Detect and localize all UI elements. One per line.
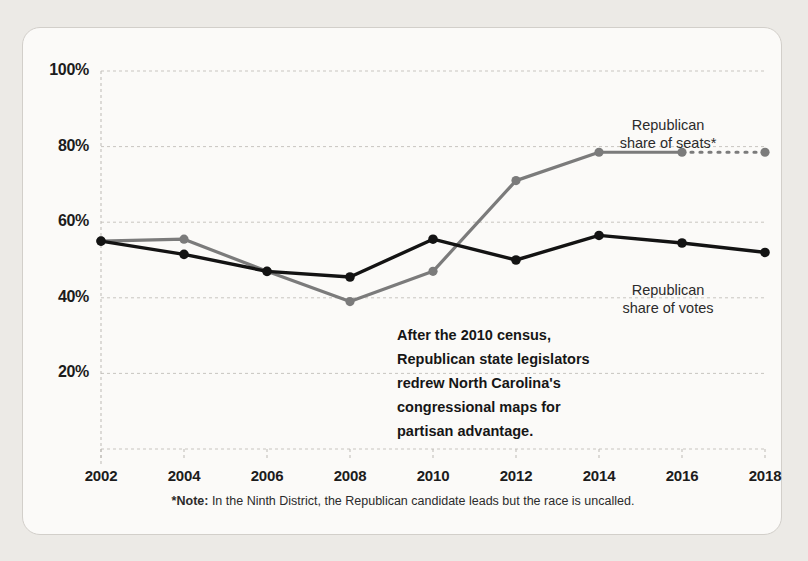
x-tick-label: 2002 bbox=[71, 467, 131, 484]
data-point-marker bbox=[96, 236, 106, 246]
data-point-marker bbox=[760, 148, 769, 157]
series-label-votes-line1: Republican bbox=[632, 282, 705, 298]
series-line-solid bbox=[101, 152, 682, 301]
data-point-marker bbox=[677, 238, 687, 248]
x-tick-label: 2014 bbox=[569, 467, 629, 484]
data-point-marker bbox=[428, 234, 438, 244]
series-label-seats-line1: Republican bbox=[632, 117, 705, 133]
data-point-marker bbox=[345, 272, 355, 282]
y-tick-label: 20% bbox=[29, 363, 89, 381]
x-tick-label: 2004 bbox=[154, 467, 214, 484]
x-tick-label: 2008 bbox=[320, 467, 380, 484]
data-point-marker bbox=[345, 297, 354, 306]
data-point-marker bbox=[760, 248, 770, 258]
annotation-line: After the 2010 census, bbox=[397, 323, 637, 347]
y-tick-label: 40% bbox=[29, 288, 89, 306]
annotation-line: Republican state legislators bbox=[397, 347, 637, 371]
y-tick-label: 80% bbox=[29, 137, 89, 155]
data-point-marker bbox=[511, 255, 521, 265]
x-tick-label: 2010 bbox=[403, 467, 463, 484]
footnote-text: In the Ninth District, the Republican ca… bbox=[208, 494, 634, 508]
data-point-marker bbox=[179, 250, 189, 260]
x-tick-label: 2012 bbox=[486, 467, 546, 484]
chart-card: 20%40%60%80%100% 20022004200620082010201… bbox=[22, 27, 782, 535]
y-tick-label: 60% bbox=[29, 212, 89, 230]
series-label-votes: Republican share of votes bbox=[593, 281, 743, 317]
annotation-line: congressional maps for bbox=[397, 395, 637, 419]
y-tick-label: 100% bbox=[29, 61, 89, 79]
x-tick-label: 2006 bbox=[237, 467, 297, 484]
x-tick-label: 2016 bbox=[652, 467, 712, 484]
series-label-seats-line2: share of seats* bbox=[620, 135, 717, 151]
data-point-marker bbox=[179, 235, 188, 244]
footnote: *Note: In the Ninth District, the Republ… bbox=[23, 494, 783, 508]
series-label-seats: Republican share of seats* bbox=[593, 116, 743, 152]
data-point-marker bbox=[428, 267, 437, 276]
annotation-line: redrew North Carolina's bbox=[397, 371, 637, 395]
x-tick-label: 2018 bbox=[735, 467, 795, 484]
data-point-marker bbox=[511, 176, 520, 185]
series-label-votes-line2: share of votes bbox=[622, 300, 713, 316]
data-point-marker bbox=[262, 267, 272, 277]
census-annotation: After the 2010 census,Republican state l… bbox=[397, 323, 637, 443]
data-point-marker bbox=[594, 231, 604, 241]
footnote-marker: *Note: bbox=[172, 494, 209, 508]
annotation-line: partisan advantage. bbox=[397, 419, 637, 443]
